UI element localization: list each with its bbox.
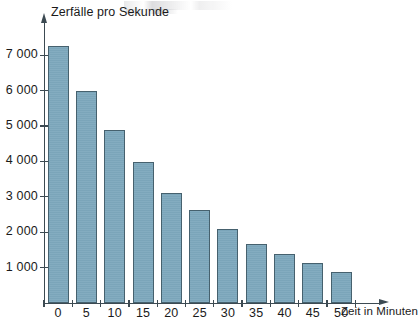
- bar: [274, 254, 295, 303]
- bar: [133, 162, 154, 303]
- x-axis-tick: [326, 300, 327, 307]
- bar: [331, 272, 352, 303]
- x-axis-tick-label: 20: [164, 306, 178, 320]
- x-axis-tick: [43, 300, 44, 307]
- bar: [76, 91, 97, 303]
- decay-bar-chart: Zerfälle pro Sekunde Zeit in Minuten 1 0…: [0, 0, 419, 326]
- y-axis-tick-label: 5 000: [6, 118, 38, 132]
- y-axis-tick-label: 3 000: [6, 189, 38, 203]
- x-axis-tick: [270, 300, 271, 307]
- y-axis-tick-label: 2 000: [6, 224, 38, 238]
- y-axis-arrow-icon: [41, 13, 47, 23]
- x-axis-tick-label: 0: [55, 306, 62, 320]
- y-axis-tick-label: 4 000: [6, 153, 38, 167]
- x-axis-tick: [298, 300, 299, 307]
- bar: [104, 130, 125, 303]
- x-axis-tick: [185, 300, 186, 307]
- x-axis-tick-label: 30: [221, 306, 235, 320]
- x-axis-tick-label: 40: [277, 306, 291, 320]
- bar: [246, 244, 267, 303]
- x-axis-tick: [213, 300, 214, 307]
- x-axis-tick: [241, 300, 242, 307]
- x-axis-tick-label: 5: [83, 306, 90, 320]
- bar: [217, 229, 238, 303]
- x-axis-tick: [100, 300, 101, 307]
- x-axis-tick-label: 45: [306, 306, 320, 320]
- y-axis-tick-label: 1 000: [6, 260, 38, 274]
- x-axis-tick: [355, 300, 356, 307]
- x-axis-title: Zeit in Minuten: [341, 305, 418, 317]
- x-axis-tick: [157, 300, 158, 307]
- bar: [189, 210, 210, 303]
- x-axis-tick-label: 35: [249, 306, 263, 320]
- x-axis-tick: [72, 300, 73, 307]
- y-axis-tick-label: 6 000: [6, 83, 38, 97]
- x-axis-tick: [128, 300, 129, 307]
- y-axis-tick-label: 7 000: [6, 47, 38, 61]
- x-axis-tick-label: 10: [108, 306, 122, 320]
- x-axis-tick-label: 25: [192, 306, 206, 320]
- bar: [48, 46, 69, 303]
- bar: [161, 193, 182, 303]
- bar: [302, 263, 323, 303]
- y-axis-line: [44, 22, 45, 304]
- x-axis-tick-label: 50: [334, 306, 348, 320]
- y-axis-title: Zerfälle pro Sekunde: [51, 5, 169, 19]
- x-axis-tick-label: 15: [136, 306, 150, 320]
